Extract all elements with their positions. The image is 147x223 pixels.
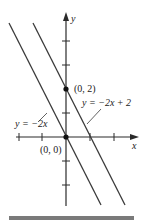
- y-axis-label: y: [70, 13, 76, 24]
- point-label-0-2: (0, 2): [74, 83, 96, 95]
- point-label-origin: (0, 0): [40, 144, 62, 156]
- graph-canvas: y x (0, 2) (0, 0) y = −2x y = −2x + 2: [0, 0, 147, 223]
- bottom-rule-bar: [9, 216, 134, 220]
- point-0-2: [63, 86, 68, 91]
- line-y-eq-neg2x: [9, 23, 101, 205]
- x-axis-label: x: [131, 140, 137, 151]
- line-y-eq-neg2x-plus-2: [33, 23, 125, 205]
- point-origin: [63, 134, 68, 139]
- leader-line-neg2x-plus-2: [87, 109, 101, 124]
- line-label-neg2x-plus-2: y = −2x + 2: [81, 97, 131, 108]
- y-axis-arrow-icon: [63, 12, 69, 21]
- line-label-neg2x: y = −2x: [14, 118, 48, 129]
